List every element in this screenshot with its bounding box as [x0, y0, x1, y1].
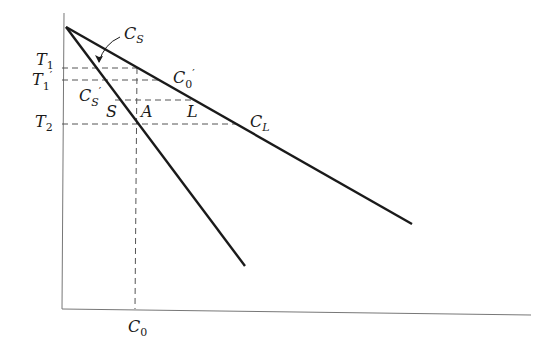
cs-pointer-arrow [99, 37, 120, 62]
y-axis [62, 13, 64, 309]
label-c0-prime: C0′ [173, 68, 195, 90]
label-cs-prime: CS′ [79, 86, 101, 108]
label-solid-region: S [106, 104, 117, 120]
label-cs: CS [124, 26, 144, 45]
solidus-line [66, 27, 245, 266]
label-cl: CL [250, 114, 270, 133]
x-axis [62, 309, 531, 315]
label-t1-prime: T1′ [32, 70, 52, 92]
arrowhead-icon [95, 55, 103, 63]
label-c0: C0 [128, 319, 147, 338]
label-t2: T2 [35, 114, 53, 133]
label-point-a: A [141, 104, 153, 120]
phase-diagram [0, 0, 559, 355]
liquidus-line [66, 27, 412, 224]
c0-composition-line [135, 68, 137, 309]
label-liquid-region: L [187, 104, 198, 120]
